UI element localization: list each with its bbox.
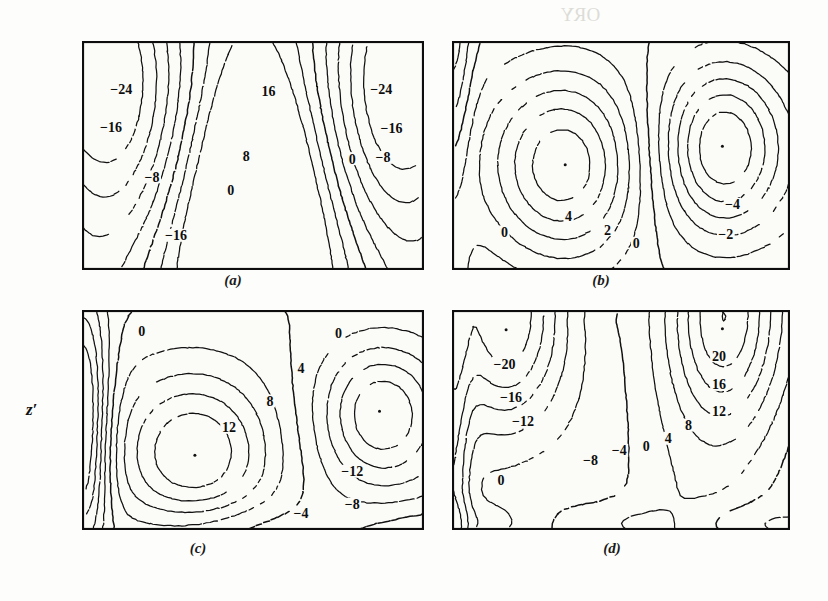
extremum-marker: [721, 327, 724, 330]
y-axis-label: z′: [26, 400, 37, 420]
contour-label: −16: [100, 120, 122, 135]
contour-figure: ORYw pattern in fronopposed by pressus i…: [0, 0, 828, 601]
contour-label: −4: [293, 506, 308, 521]
extremum-marker: [505, 328, 508, 331]
contour-panel-b: 4200−4−2: [452, 41, 790, 270]
panel-caption-a: (a): [213, 272, 253, 289]
contour-label: −16: [381, 121, 403, 136]
extremum-marker: [378, 410, 381, 413]
contour-line: [564, 508, 568, 509]
extremum-marker: [193, 454, 196, 457]
panel-caption-b: (b): [581, 272, 621, 289]
contour-label: 0: [227, 183, 234, 198]
contour-label: −4: [612, 443, 627, 458]
contour-label: −2: [718, 227, 733, 242]
contour-label: 4: [565, 209, 572, 224]
contour-label: 0: [498, 473, 505, 488]
contour-label: 16: [261, 84, 275, 99]
plot-background: [82, 41, 424, 270]
contour-label: 12: [222, 420, 236, 435]
contour-label: −16: [165, 228, 187, 243]
contour-label: 12: [712, 404, 726, 419]
contour-label: −8: [583, 453, 598, 468]
panel-caption-c: (c): [178, 540, 218, 557]
contour-label: 0: [633, 236, 640, 251]
extremum-marker: [721, 145, 724, 148]
contour-label: −20: [493, 357, 515, 372]
contour-label: −12: [341, 464, 363, 479]
contour-line: [182, 394, 185, 395]
contour-label: −16: [500, 390, 522, 405]
contour-label: −8: [345, 497, 360, 512]
contour-label: 4: [297, 361, 304, 376]
contour-panel-a: −2416−24−16−1680−8−80−16: [82, 41, 424, 270]
contour-label: 20: [712, 349, 726, 364]
contour-label: 0: [138, 324, 145, 339]
contour-label: 0: [349, 152, 356, 167]
contour-label: −12: [512, 414, 534, 429]
contour-label: 0: [643, 439, 650, 454]
contour-label: 16: [712, 377, 726, 392]
extremum-marker: [564, 163, 567, 166]
contour-label: 0: [501, 225, 508, 240]
contour-label: −4: [725, 197, 740, 212]
contour-label: 0: [335, 326, 342, 341]
contour-label: −8: [376, 150, 391, 165]
showthrough-line: ORY: [560, 4, 600, 26]
contour-label: −24: [110, 82, 132, 97]
contour-label: −8: [145, 170, 160, 185]
contour-label: 8: [685, 418, 692, 433]
contour-label: 8: [243, 149, 250, 164]
contour-label: 4: [665, 431, 672, 446]
contour-label: 2: [604, 223, 611, 238]
contour-label: 8: [267, 394, 274, 409]
contour-panel-c: 004812−12−8−4: [82, 310, 424, 530]
contour-panel-d: 20−2016−1612−12840−4−80: [452, 310, 790, 530]
contour-label: −24: [370, 82, 392, 97]
panel-caption-d: (d): [592, 540, 632, 557]
plot-background: [82, 310, 424, 530]
